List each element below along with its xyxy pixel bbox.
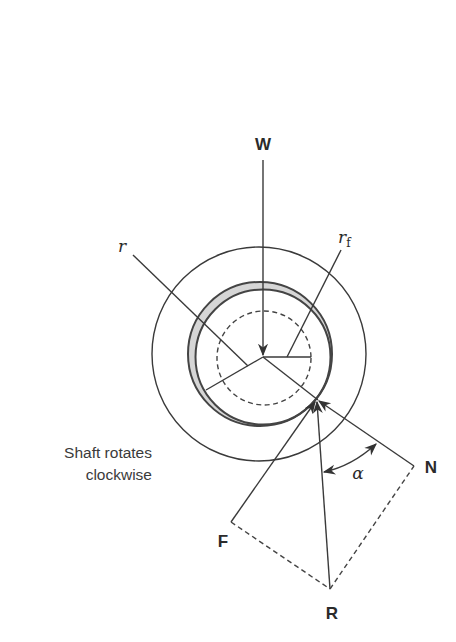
label-rf-subscript: f	[346, 236, 352, 250]
angle-alpha-arc	[324, 444, 376, 472]
label-r: r	[118, 236, 127, 256]
housing-outer-circle	[152, 247, 366, 461]
normal-force-n-arrow	[319, 401, 414, 466]
label-rf: rf	[338, 227, 352, 250]
label-w: W	[255, 135, 272, 154]
rotation-note-line2: clockwise	[86, 466, 152, 483]
rf-leader-line	[287, 250, 341, 357]
parallelogram-dash-f-r	[231, 522, 330, 589]
center-to-contact-line	[263, 357, 318, 400]
label-f: F	[218, 532, 228, 551]
label-n: N	[425, 458, 437, 477]
bearing-force-diagram: W r rf F R N α Shaft rotates clockwise	[0, 0, 456, 642]
rotation-note-line1: Shaft rotates	[64, 444, 152, 461]
label-alpha: α	[352, 463, 364, 483]
shaft-radius-line	[206, 357, 263, 390]
label-r-resultant: R	[326, 604, 338, 623]
parallelogram-dash-r-n	[330, 466, 414, 589]
resultant-r-arrow	[317, 402, 330, 589]
friction-force-f-arrow	[231, 402, 315, 522]
